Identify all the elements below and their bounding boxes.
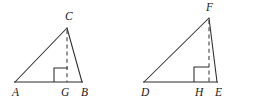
triangle-def: D H E F	[140, 1, 222, 98]
geometry-svg: A G B C D H E F	[0, 0, 264, 104]
vertex-label-a: A	[11, 86, 20, 98]
geometry-figure: A G B C D H E F	[0, 0, 264, 104]
right-angle-marker-g	[54, 68, 68, 82]
vertex-label-d: D	[140, 86, 150, 98]
right-angle-marker-h	[194, 67, 209, 82]
vertex-label-g: G	[61, 86, 70, 98]
triangle-abc: A G B C	[11, 10, 88, 98]
vertex-label-f: F	[205, 1, 214, 13]
vertex-label-e: E	[214, 86, 222, 98]
vertex-label-b: B	[81, 86, 88, 98]
segment-fe	[209, 18, 217, 82]
segment-df	[144, 18, 209, 82]
segment-cb	[67, 28, 82, 82]
vertex-label-c: C	[65, 10, 73, 22]
segment-ac	[15, 28, 67, 82]
vertex-label-h: H	[194, 86, 204, 98]
